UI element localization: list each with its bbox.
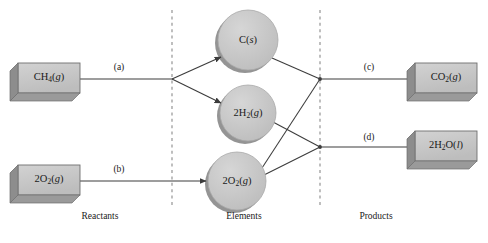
column-label-products: Products [336,211,416,221]
column-label-elements: Elements [204,211,284,221]
reactant-methane[interactable] [10,63,80,101]
product-carbon-dioxide[interactable] [407,63,477,101]
element-hydrogen[interactable] [220,85,276,141]
reactant-oxygen[interactable] [10,165,80,203]
edge-hydrogen-to-bottom-node [273,122,320,147]
join-node-top [318,77,322,81]
edge-label-d: (d) [349,132,389,142]
element-carbon[interactable] [218,10,278,70]
edge-label-a: (a) [99,62,139,72]
edge-a-to-hydrogen [172,79,221,103]
diagram-vector-layer [0,0,488,243]
edge-label-b: (b) [99,164,139,174]
element-oxygen[interactable] [208,152,266,210]
join-node-bottom [318,145,322,149]
edge-label-c: (c) [349,62,389,72]
edge-a-to-carbon [172,57,221,79]
product-water[interactable] [407,131,477,169]
diagram-canvas: CH4(g) 2O2(g) CO2(g) 2H2O(l) C(s) 2H2(g)… [0,0,488,243]
edge-carbon-to-top-node [272,58,320,79]
column-label-reactants: Reactants [60,211,140,221]
